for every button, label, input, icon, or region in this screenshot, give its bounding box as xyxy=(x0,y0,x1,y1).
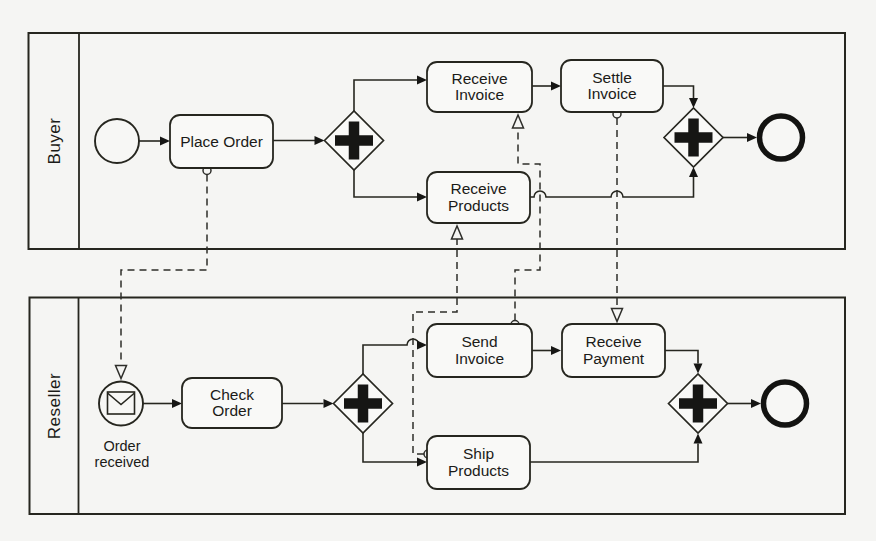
arrowhead-icon xyxy=(694,364,703,374)
message-flow-place-order-to-order-received xyxy=(121,175,207,361)
arrowhead-icon xyxy=(172,399,182,408)
arrowhead-icon xyxy=(751,399,761,408)
arrowhead-icon xyxy=(417,76,427,85)
reseller-parallel-join-gateway xyxy=(669,374,728,433)
arrowhead-icon xyxy=(417,341,427,350)
task-receive-products-label-line1: Receive xyxy=(451,180,507,197)
flow-receive-payment-to-join xyxy=(665,351,698,364)
buyer-end-event xyxy=(760,116,803,159)
task-settle-invoice-label-line2: Invoice xyxy=(587,85,636,102)
order-received-label-line1: Order xyxy=(103,438,140,454)
task-check-order-label-line1: Check xyxy=(210,386,254,403)
task-send-invoice: Send Invoice xyxy=(427,324,532,377)
task-check-order: Check Order xyxy=(182,378,282,428)
task-receive-products: Receive Products xyxy=(427,172,530,223)
arrowhead-icon xyxy=(551,346,561,355)
flow-receive-products-to-join xyxy=(530,177,694,197)
reseller-message-start-event: Order received xyxy=(95,382,150,471)
arrowhead-icon xyxy=(747,133,757,142)
buyer-parallel-join-gateway xyxy=(664,108,723,167)
task-receive-payment-label-line2: Payment xyxy=(583,350,645,367)
arrowhead-icon xyxy=(689,167,698,177)
task-place-order: Place Order xyxy=(170,115,273,168)
task-receive-payment: Receive Payment xyxy=(562,324,665,377)
task-send-invoice-label-line2: Invoice xyxy=(455,350,504,367)
task-receive-invoice: Receive Invoice xyxy=(427,62,532,112)
flow-gateway-to-send-invoice xyxy=(363,339,419,374)
flow-settle-invoice-to-join xyxy=(663,86,694,98)
task-receive-payment-label-line1: Receive xyxy=(586,333,642,350)
flow-gateway-to-ship-products xyxy=(363,433,417,462)
task-ship-products-label-line1: Ship xyxy=(463,445,494,462)
bpmn-collaboration-diagram: Buyer Reseller xyxy=(0,0,876,541)
reseller-pool-label: Reseller xyxy=(45,373,64,439)
task-receive-products-label-line2: Products xyxy=(448,197,509,214)
order-received-label-line2: received xyxy=(95,454,150,470)
task-place-order-label: Place Order xyxy=(180,133,263,150)
flow-gateway-to-receive-products xyxy=(354,170,417,197)
task-check-order-label-line2: Order xyxy=(212,402,252,419)
arrowhead-icon xyxy=(417,193,427,202)
task-settle-invoice-label-line1: Settle xyxy=(592,69,632,86)
task-ship-products-label-line2: Products xyxy=(448,462,509,479)
task-receive-invoice-label-line2: Invoice xyxy=(455,86,504,103)
flow-ship-products-to-join xyxy=(530,444,698,463)
open-arrowhead-icon xyxy=(513,115,524,128)
arrowhead-icon xyxy=(689,98,698,108)
task-settle-invoice: Settle Invoice xyxy=(561,60,663,112)
flow-gateway-to-receive-invoice xyxy=(354,80,417,111)
buyer-pool-label: Buyer xyxy=(45,118,64,165)
arrowhead-icon xyxy=(160,137,170,146)
open-arrowhead-icon xyxy=(612,309,623,322)
message-flow-send-invoice-to-receive-invoice xyxy=(515,129,540,321)
open-arrowhead-icon xyxy=(452,226,463,239)
task-receive-invoice-label-line1: Receive xyxy=(452,70,508,87)
arrowhead-icon xyxy=(694,434,703,444)
buyer-start-event xyxy=(95,119,139,163)
arrowhead-icon xyxy=(324,399,334,408)
arrowhead-icon xyxy=(417,458,427,467)
reseller-end-event xyxy=(764,382,807,425)
buyer-parallel-split-gateway xyxy=(325,111,384,170)
arrowhead-icon xyxy=(315,136,325,145)
task-ship-products: Ship Products xyxy=(427,436,530,489)
arrowhead-icon xyxy=(551,82,561,91)
reseller-parallel-split-gateway xyxy=(334,374,393,433)
open-arrowhead-icon xyxy=(116,366,127,379)
task-send-invoice-label-line1: Send xyxy=(461,333,497,350)
